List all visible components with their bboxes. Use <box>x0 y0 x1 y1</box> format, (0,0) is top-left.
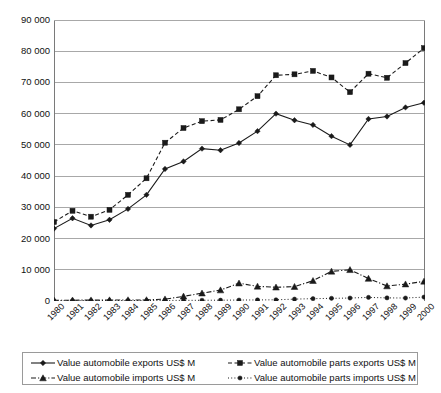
data-point <box>70 208 75 213</box>
gridlines <box>54 20 425 301</box>
data-point <box>385 296 389 300</box>
x-axis-labels: 1980198119821983198419851986198719881989… <box>54 302 425 342</box>
y-axis-tick-label: 30 000 <box>2 202 50 212</box>
y-axis-tick-label: 20 000 <box>2 234 50 244</box>
data-point <box>365 275 372 281</box>
data-point <box>218 117 223 122</box>
data-point <box>292 72 297 77</box>
data-point <box>422 295 425 299</box>
data-point <box>107 217 112 222</box>
legend-label: Value automobile exports US$ M <box>57 357 195 368</box>
data-point <box>217 287 224 293</box>
data-point <box>200 298 204 301</box>
data-point <box>292 297 296 301</box>
data-point <box>70 216 75 221</box>
legend-item-automobile-parts-imports: Value automobile parts imports US$ M <box>222 370 417 385</box>
data-point <box>310 122 315 127</box>
chart-container: 90 00080 00070 00060 00050 00040 00030 0… <box>0 0 441 393</box>
data-point <box>403 296 407 300</box>
data-point <box>144 298 148 301</box>
data-point <box>218 147 223 152</box>
data-point <box>348 296 352 300</box>
data-point <box>329 75 334 80</box>
data-point <box>144 176 149 181</box>
series-1 <box>54 46 425 225</box>
legend-key-triangle-icon <box>29 372 57 384</box>
data-point <box>384 114 389 119</box>
plot-area <box>54 20 425 301</box>
data-point <box>89 214 94 219</box>
plot-svg <box>54 20 425 301</box>
data-point <box>422 46 426 51</box>
data-point <box>88 223 93 228</box>
data-point <box>181 126 186 131</box>
data-point <box>107 298 111 301</box>
y-axis-tick-label: 90 000 <box>2 15 50 25</box>
legend-label: Value automobile parts imports US$ M <box>254 372 416 383</box>
axis-lines <box>54 20 425 301</box>
data-point <box>366 295 370 299</box>
data-point <box>311 297 315 301</box>
data-point <box>403 105 408 110</box>
y-axis-tick-label: 0 <box>2 296 50 306</box>
y-axis-tick-label: 50 000 <box>2 140 50 150</box>
data-point <box>274 73 279 78</box>
legend-item-automobile-exports: Value automobile exports US$ M <box>23 355 222 370</box>
data-point <box>310 278 317 284</box>
data-point <box>366 71 371 76</box>
data-point <box>348 90 353 95</box>
data-point <box>255 94 260 99</box>
data-point <box>107 207 112 212</box>
data-point <box>54 220 57 225</box>
data-point <box>236 280 243 286</box>
data-point <box>403 61 408 66</box>
data-point <box>163 140 168 145</box>
y-axis-labels: 90 00080 00070 00060 00050 00040 00030 0… <box>0 0 50 301</box>
legend-row: Value automobile imports US$ M Value aut… <box>23 370 417 385</box>
data-point <box>329 296 333 300</box>
data-point <box>54 299 56 301</box>
data-point <box>421 100 425 105</box>
y-axis-tick-label: 10 000 <box>2 265 50 275</box>
data-point <box>274 298 278 301</box>
data-point <box>237 107 242 112</box>
y-axis-tick-label: 40 000 <box>2 171 50 181</box>
data-point <box>328 268 335 274</box>
y-axis-tick-label: 80 000 <box>2 46 50 56</box>
legend-item-automobile-imports: Value automobile imports US$ M <box>23 370 222 385</box>
data-point <box>89 298 93 301</box>
legend-key-diamond-icon <box>29 357 57 369</box>
data-point <box>311 68 316 73</box>
data-point <box>181 298 185 301</box>
data-point <box>126 298 130 301</box>
legend-row: Value automobile exports US$ M Value aut… <box>23 355 417 370</box>
chart-legend: Value automobile exports US$ M Value aut… <box>22 352 418 385</box>
data-point <box>126 192 131 197</box>
data-point <box>329 133 334 138</box>
legend-item-automobile-parts-exports: Value automobile parts exports US$ M <box>222 355 417 370</box>
legend-key-circle-icon <box>226 372 254 384</box>
data-point <box>292 118 297 123</box>
y-axis-tick-label: 60 000 <box>2 109 50 119</box>
legend-label: Value automobile parts exports US$ M <box>254 357 416 368</box>
series-layer <box>54 46 425 301</box>
data-point <box>200 119 205 124</box>
data-point <box>237 298 241 301</box>
legend-label: Value automobile imports US$ M <box>57 372 195 383</box>
data-point <box>385 75 390 80</box>
data-point <box>218 298 222 301</box>
data-point <box>70 299 74 301</box>
legend-key-square-icon <box>226 357 254 369</box>
y-axis-tick-label: 70 000 <box>2 77 50 87</box>
data-point <box>163 298 167 301</box>
data-point <box>255 298 259 301</box>
data-point <box>421 278 425 284</box>
